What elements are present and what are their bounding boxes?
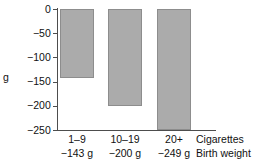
y-tick-label: −150 xyxy=(1,76,51,87)
x-axis-labels: 1–9 −143 g 10–19 −200 g 20+ −249 g Cigar… xyxy=(0,133,262,168)
y-tick-3: −150 xyxy=(0,76,51,87)
bar-category-1 xyxy=(108,9,142,106)
y-tick-2: −100 xyxy=(0,52,51,63)
y-tick-label: −50 xyxy=(1,28,51,39)
x-category-label: 10–19 xyxy=(110,133,139,145)
x-category-label: 1–9 xyxy=(68,133,86,145)
bar-chart: g 0 −50 −100 −150 −200 −250 1–9 −143 g xyxy=(0,0,262,168)
row-legend: Cigarettes Birth weight xyxy=(196,133,251,159)
y-tick-0: 0 xyxy=(0,4,51,15)
row-legend-categories: Cigarettes xyxy=(196,133,244,145)
x-axis-line xyxy=(57,130,216,131)
y-tick-label: −200 xyxy=(1,100,51,111)
y-tick-label: −100 xyxy=(1,52,51,63)
y-tick-4: −200 xyxy=(0,100,51,111)
y-tick-label: 0 xyxy=(1,4,51,15)
x-category-label: 20+ xyxy=(165,133,183,145)
plot-area xyxy=(57,9,215,130)
y-tick-1: −50 xyxy=(0,28,51,39)
row-legend-values: Birth weight xyxy=(196,147,251,159)
bar-category-0 xyxy=(60,9,94,78)
bar-category-2 xyxy=(157,9,191,130)
